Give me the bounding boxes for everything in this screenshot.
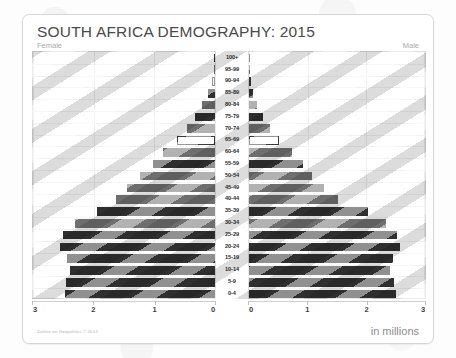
- bar-male-10-14: [249, 266, 390, 275]
- bar-female-90-94: [212, 77, 215, 86]
- bar-female-70-74: [187, 124, 215, 133]
- age-label-80-84: 80-84: [216, 101, 248, 107]
- male-panel: [248, 51, 426, 299]
- age-label-65-69: 65-69: [216, 136, 248, 142]
- female-side-label: Female: [37, 41, 62, 50]
- bar-female-75-79: [195, 113, 215, 122]
- age-label-75-79: 75-79: [216, 113, 248, 119]
- age-label-55-59: 55-59: [216, 160, 248, 166]
- female-panel: [32, 51, 216, 299]
- bar-female-10-14: [70, 266, 215, 275]
- bar-male-25-29: [249, 231, 397, 240]
- bar-female-25-29: [63, 231, 215, 240]
- age-label-0-4: 0-4: [216, 290, 248, 296]
- age-label-40-44: 40-44: [216, 195, 248, 201]
- age-label-60-64: 60-64: [216, 148, 248, 154]
- bar-male-20-24: [249, 243, 400, 252]
- age-label-100+: 100+: [216, 54, 248, 60]
- age-label-70-74: 70-74: [216, 125, 248, 131]
- bar-male-75-79: [249, 113, 263, 122]
- chart-card: SOUTH AFRICA DEMOGRAPHY: 2015 Female Mal…: [22, 14, 434, 344]
- age-label-95-99: 95-99: [216, 66, 248, 72]
- female-axis-rule: [32, 301, 216, 302]
- tick-label-1: 1: [305, 305, 309, 314]
- bar-male-55-59: [249, 160, 303, 169]
- tick-label-3: 3: [33, 305, 37, 314]
- bar-male-85-89: [249, 89, 253, 98]
- tick: [215, 301, 216, 305]
- tick-label-3: 3: [421, 305, 425, 314]
- bar-female-85-89: [208, 89, 215, 98]
- tick-label-1: 1: [153, 305, 157, 314]
- bar-female-80-84: [202, 101, 215, 110]
- age-label-15-19: 15-19: [216, 254, 248, 260]
- age-label-45-49: 45-49: [216, 184, 248, 190]
- bar-female-55-59: [153, 160, 215, 169]
- bar-female-35-39: [97, 207, 215, 216]
- bar-male-100+: [249, 54, 250, 63]
- bar-female-50-54: [140, 172, 215, 181]
- bar-male-0-4: [249, 290, 396, 299]
- bar-male-45-49: [249, 184, 324, 193]
- source-attribution: Zahlen on Geopolitics © 2013: [37, 329, 98, 334]
- bar-female-40-44: [116, 195, 215, 204]
- age-label-50-54: 50-54: [216, 172, 248, 178]
- age-label-90-94: 90-94: [216, 77, 248, 83]
- age-group-labels: 0-45-910-1415-1920-2425-2930-3435-3940-4…: [216, 51, 248, 299]
- bar-female-20-24: [60, 243, 215, 252]
- bar-female-30-34: [75, 219, 215, 228]
- male-axis-rule: [248, 301, 426, 302]
- tick: [425, 301, 426, 305]
- bar-male-95-99: [249, 65, 250, 74]
- tick-label-0: 0: [249, 305, 253, 314]
- bar-female-60-64: [163, 148, 215, 157]
- bar-male-65-69: [249, 136, 279, 145]
- age-label-20-24: 20-24: [216, 243, 248, 249]
- age-label-30-34: 30-34: [216, 219, 248, 225]
- bar-male-90-94: [249, 77, 251, 86]
- bar-female-5-9: [66, 278, 215, 287]
- bar-female-15-19: [67, 254, 215, 263]
- age-label-35-39: 35-39: [216, 207, 248, 213]
- female-x-axis: 0123: [32, 301, 216, 321]
- age-label-85-89: 85-89: [216, 89, 248, 95]
- bar-male-30-34: [249, 219, 386, 228]
- age-label-5-9: 5-9: [216, 278, 248, 284]
- bar-male-35-39: [249, 207, 368, 216]
- bar-male-70-74: [249, 124, 270, 133]
- tick-label-2: 2: [91, 305, 95, 314]
- page-title: SOUTH AFRICA DEMOGRAPHY: 2015: [37, 23, 315, 41]
- bar-female-100+: [214, 54, 215, 63]
- bar-male-60-64: [249, 148, 292, 157]
- male-x-axis: 0123: [248, 301, 426, 321]
- bar-female-95-99: [214, 65, 215, 74]
- bar-male-50-54: [249, 172, 312, 181]
- tick-label-2: 2: [365, 305, 369, 314]
- bar-male-5-9: [249, 278, 394, 287]
- pyramid-plot: 0-45-910-1415-1920-2425-2930-3435-3940-4…: [23, 51, 435, 309]
- bar-female-65-69: [177, 136, 215, 145]
- age-label-25-29: 25-29: [216, 231, 248, 237]
- units-label: in millions: [371, 325, 419, 337]
- tick-label-0: 0: [211, 305, 215, 314]
- bar-female-0-4: [65, 290, 215, 299]
- bar-male-15-19: [249, 254, 393, 263]
- age-label-10-14: 10-14: [216, 266, 248, 272]
- bar-female-45-49: [127, 184, 215, 193]
- male-side-label: Male: [403, 41, 419, 50]
- bar-male-40-44: [249, 195, 338, 204]
- bar-male-80-84: [249, 101, 257, 110]
